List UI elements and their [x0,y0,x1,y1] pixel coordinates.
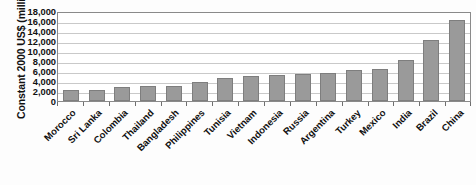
bar-slot [264,13,290,101]
y-axis-tick-label: 6,000 [14,67,56,77]
y-axis-tick-label: 18,000 [14,7,56,17]
bar [114,87,130,101]
bar [217,78,233,102]
bar [449,20,465,102]
bar [423,40,439,102]
bar [320,73,336,101]
bar-slot [58,13,84,101]
bar [372,69,388,102]
bar-slot [187,13,213,101]
bar-slot [419,13,445,101]
bar [89,90,105,101]
bar [295,74,311,101]
bars-layer [58,13,470,101]
bar-slot [290,13,316,101]
bar-slot [161,13,187,101]
bar-slot [367,13,393,101]
y-axis-tick-label: 14,000 [14,27,56,37]
x-axis-category-labels: MoroccoSri LankaColombiaThailandBanglade… [57,107,471,183]
y-axis-tick-label: 16,000 [14,17,56,27]
plot-area [57,12,471,102]
bar-chart-figure: Constant 2000 US$ (millions) 18,00016,00… [0,0,476,185]
y-axis-tick-label: 12,000 [14,37,56,47]
bar-slot [316,13,342,101]
bar [140,86,156,101]
bar-slot [341,13,367,101]
y-axis-tick-label: 0 [14,97,56,107]
bar [269,75,285,101]
y-axis-tick-label: 2,000 [14,87,56,97]
bar-slot [213,13,239,101]
y-axis-tick-label: 8,000 [14,57,56,67]
bar [243,76,259,102]
bar-slot [393,13,419,101]
y-axis-tick-label: 10,000 [14,47,56,57]
bar [346,70,362,101]
bar [398,60,414,101]
bar [192,82,208,101]
bar-slot [110,13,136,101]
bar-slot [238,13,264,101]
bar-slot [135,13,161,101]
bar-slot [84,13,110,101]
bar-slot [444,13,470,101]
bar [166,86,182,102]
y-axis-tick-label: 4,000 [14,77,56,87]
bar [63,90,79,102]
y-axis-tick-labels: 18,00016,00014,00012,00010,0008,0006,000… [14,12,56,102]
